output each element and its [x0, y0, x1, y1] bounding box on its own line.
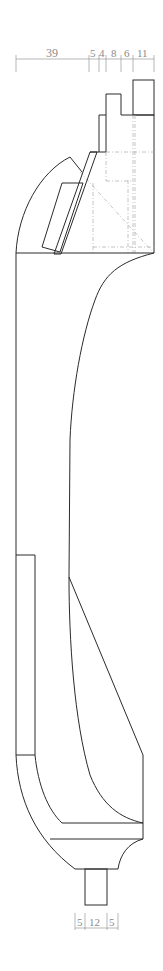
dim-label-bottom-12: 12: [89, 916, 100, 928]
dim-label-6: 6: [124, 47, 130, 59]
slanted-insert: [16, 152, 97, 254]
dim-label-bottom-5-left: 5: [77, 916, 83, 928]
dim-label-11: 11: [137, 47, 148, 59]
top-dimension-chain: 39 5 4 8 6 11: [16, 46, 154, 72]
bottom-dimension-chain: 5 12 5: [75, 913, 118, 930]
dim-label-bottom-5-right: 5: [109, 916, 115, 928]
bottom-stem: [85, 869, 107, 905]
dim-label-39: 39: [46, 46, 58, 60]
dim-label-5: 5: [90, 47, 96, 59]
top-stepped-blocks: [90, 80, 154, 253]
main-body: [16, 253, 154, 869]
hidden-lines: [80, 115, 154, 253]
technical-drawing: 39 5 4 8 6 11: [0, 0, 163, 971]
dim-label-8: 8: [111, 47, 117, 59]
dim-label-4: 4: [99, 47, 105, 59]
